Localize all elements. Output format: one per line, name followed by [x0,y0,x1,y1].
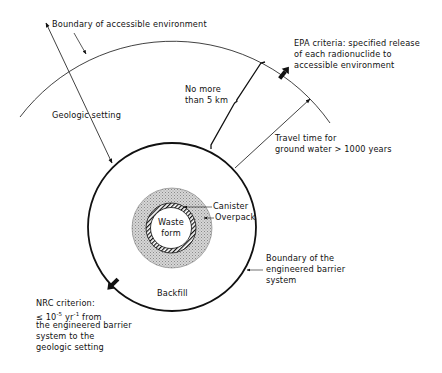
nrc-rate: ≤ 10-5 yr-1 from [36,309,132,320]
diagram-canvas: Boundary of accessible environment Geolo… [0,0,442,373]
overpack-label: Overpack [215,212,255,223]
waste-line: Waste [157,217,185,228]
nrc-line: the engineered barrier [36,320,132,331]
epa-line: EPA criteria: specified release [294,38,420,49]
travel-line: Travel time for [275,133,392,144]
epa-criteria-label: EPA criteria: specified release of each … [294,38,420,71]
travel-time-label: Travel time for ground water > 1000 year… [275,133,392,155]
nrc-line: geologic setting [36,342,132,353]
nrc-criterion-label: NRC criterion: ≤ 10-5 yr-1 from the engi… [36,298,132,353]
distance-label: No more than 5 km [185,84,228,106]
accessible-boundary-leader [74,33,86,54]
ebs-line: Boundary of the [266,253,345,264]
accessible-boundary-label: Boundary of accessible environment [52,19,207,30]
waste-line: form [157,228,185,239]
waste-form-label: Waste form [157,217,185,239]
ebs-line: system [266,275,345,286]
ebs-boundary-label: Boundary of the engineered barrier syste… [266,253,345,286]
nrc-line: system to the [36,331,132,342]
geologic-setting-label: Geologic setting [52,110,121,121]
travel-line: ground water > 1000 years [275,144,392,155]
nrc-title: NRC criterion: [36,298,132,309]
epa-line: of each radionuclide to [294,49,420,60]
epa-line: accessible environment [294,60,420,71]
distance-line: No more [185,84,228,95]
canister-label: Canister [213,201,248,212]
ebs-line: engineered barrier [266,264,345,275]
distance-line: than 5 km [185,95,228,106]
geologic-setting-arrow [46,23,112,163]
backfill-label: Backfill [157,288,188,299]
